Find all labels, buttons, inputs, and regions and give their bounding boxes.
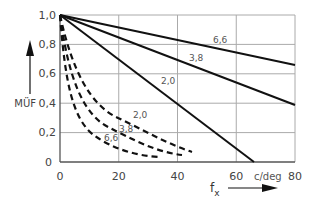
- svg-text:1,0: 1,0: [39, 9, 57, 22]
- svg-text:0,8: 0,8: [39, 38, 57, 51]
- grid: [60, 15, 295, 162]
- svg-text:0,4: 0,4: [39, 97, 57, 110]
- svg-text:0,2: 0,2: [39, 126, 57, 139]
- y-axis-label: MÜF: [14, 97, 36, 109]
- label-dashed-3-8: 3,8: [119, 124, 134, 134]
- svg-text:40: 40: [171, 170, 185, 183]
- label-solid-3-8: 3,8: [189, 53, 204, 63]
- x-axis-label: fx: [210, 181, 220, 198]
- y-ticks: 1,0 0,8 0,6 0,4 0,2 0: [39, 9, 57, 169]
- y-axis-arrow-icon: [26, 40, 34, 94]
- label-dashed-2-0: 2,0: [133, 110, 148, 120]
- x-ticks: 0 20 40 60 80 c/deg: [57, 170, 303, 183]
- x-unit-label: c/deg: [254, 171, 282, 182]
- svg-text:0: 0: [45, 156, 52, 169]
- svg-text:20: 20: [112, 170, 126, 183]
- dashed-curves: [60, 15, 192, 157]
- label-dashed-6-6: 6,6: [104, 133, 119, 143]
- label-solid-6-6: 6,6: [213, 35, 228, 45]
- x-axis-arrow-icon: [228, 184, 278, 192]
- svg-text:80: 80: [288, 170, 302, 183]
- svg-text:0,6: 0,6: [39, 67, 57, 80]
- label-solid-2-0: 2,0: [161, 76, 176, 86]
- mtf-chart: 6,6 3,8 2,0 2,0 3,8 6,6 1,0 0,8 0,6 0,4 …: [0, 0, 312, 210]
- svg-text:60: 60: [229, 170, 243, 183]
- svg-text:0: 0: [57, 170, 64, 183]
